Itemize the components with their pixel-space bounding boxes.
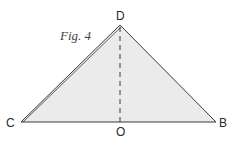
triangle-diagram: Fig. 4 D C B O <box>0 0 235 146</box>
label-b: B <box>219 116 227 130</box>
figure-caption: Fig. 4 <box>59 28 92 43</box>
label-o: O <box>116 125 125 139</box>
triangle-cdb <box>21 25 216 122</box>
label-d: D <box>116 9 125 23</box>
label-c: C <box>6 116 15 130</box>
